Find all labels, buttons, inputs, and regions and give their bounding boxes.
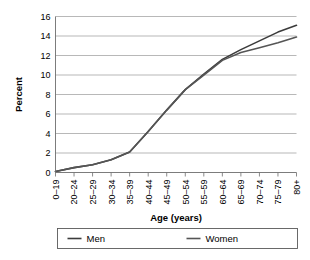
y-axis-title: Percent (13, 76, 24, 112)
gridlines-group (56, 17, 297, 154)
x-tick-label: 45–49 (162, 180, 172, 205)
y-tick-label: 6 (45, 109, 50, 119)
series-lines-group (56, 25, 297, 171)
x-tick-label: 80+ (292, 180, 302, 195)
y-tick-label: 2 (45, 148, 50, 158)
chart-canvas: 0246810121416 0–1920–2425–2930–3435–3940… (0, 0, 310, 260)
x-tick-label: 25–29 (88, 180, 98, 205)
y-tick-label: 8 (45, 90, 50, 100)
line-chart: 0246810121416 0–1920–2425–2930–3435–3940… (0, 0, 310, 260)
x-tick-label: 70–74 (255, 180, 265, 205)
x-tick-label: 0–19 (51, 180, 61, 200)
x-tick-label: 40–44 (144, 180, 154, 205)
x-tick-label: 60–64 (218, 180, 228, 205)
x-tickmarks-group (56, 173, 297, 177)
x-tick-label: 20–24 (69, 180, 79, 205)
x-tick-labels-group: 0–1920–2425–2930–3435–3940–4445–4950–545… (51, 180, 302, 205)
y-tick-label: 16 (40, 12, 50, 22)
legend-label-men: Men (87, 233, 105, 244)
x-tick-label: 30–34 (107, 180, 117, 205)
y-tick-label: 12 (40, 51, 50, 61)
x-tick-label: 55–59 (199, 180, 209, 205)
y-tick-label: 0 (45, 168, 50, 178)
y-tick-label: 4 (45, 129, 50, 139)
x-tick-label: 75–79 (273, 180, 283, 205)
y-tick-label: 10 (40, 70, 50, 80)
x-tick-label: 65–69 (236, 180, 246, 205)
y-tick-label: 14 (40, 31, 50, 41)
x-tick-label: 50–54 (181, 180, 191, 205)
y-tick-labels-group: 0246810121416 (40, 12, 50, 178)
legend-label-women: Women (206, 233, 239, 244)
x-tick-label: 35–39 (125, 180, 135, 205)
series-line-women (56, 37, 297, 172)
x-axis-title: Age (years) (150, 212, 202, 223)
